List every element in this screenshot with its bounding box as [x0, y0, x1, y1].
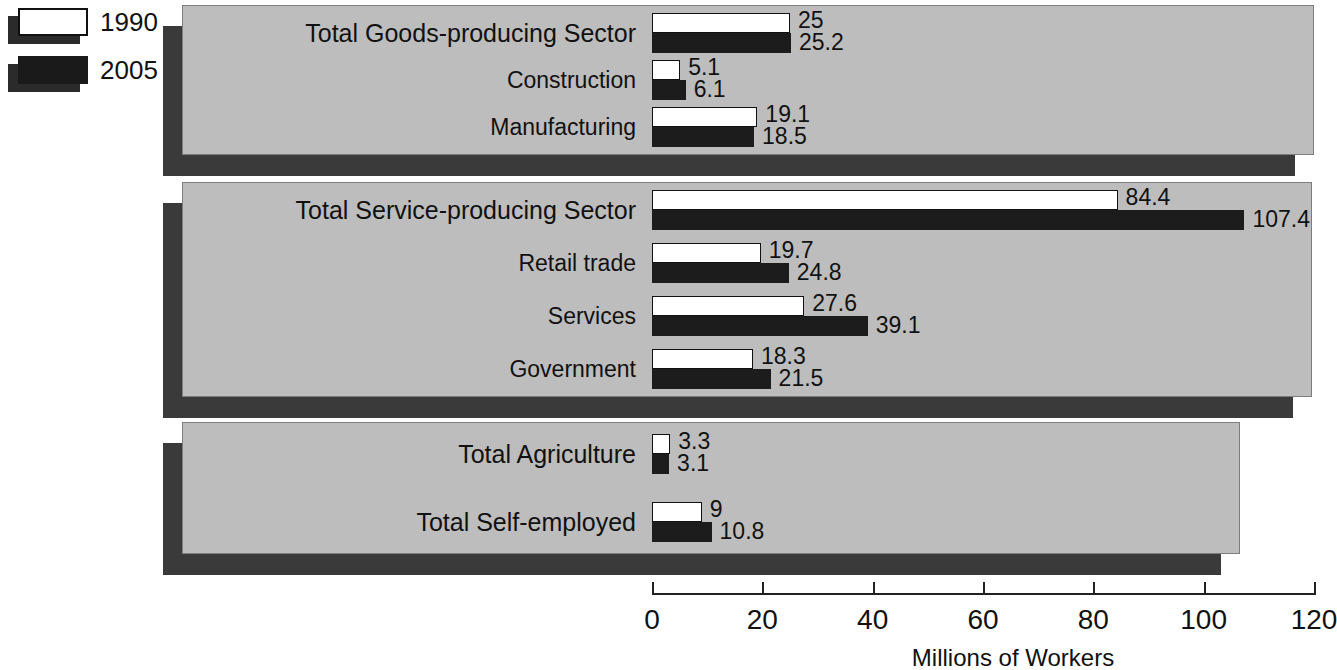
axis-tick-label: 60 — [967, 604, 998, 636]
axis-tick-label: 80 — [1078, 604, 1109, 636]
axis-tick — [1093, 582, 1095, 595]
axis-tick-label: 0 — [644, 604, 660, 636]
axis-tick — [1314, 582, 1316, 595]
axis-tick — [873, 582, 875, 595]
axis-tick — [762, 582, 764, 595]
axis-title: Millions of Workers — [912, 644, 1114, 670]
axis-tick — [652, 582, 654, 595]
axis-tick-label: 40 — [857, 604, 888, 636]
axis-tick-label: 100 — [1180, 604, 1227, 636]
axis-tick — [983, 582, 985, 595]
axis-tick-label: 120 — [1291, 604, 1337, 636]
axis-tick — [1204, 582, 1206, 595]
axis-tick-label: 20 — [747, 604, 778, 636]
